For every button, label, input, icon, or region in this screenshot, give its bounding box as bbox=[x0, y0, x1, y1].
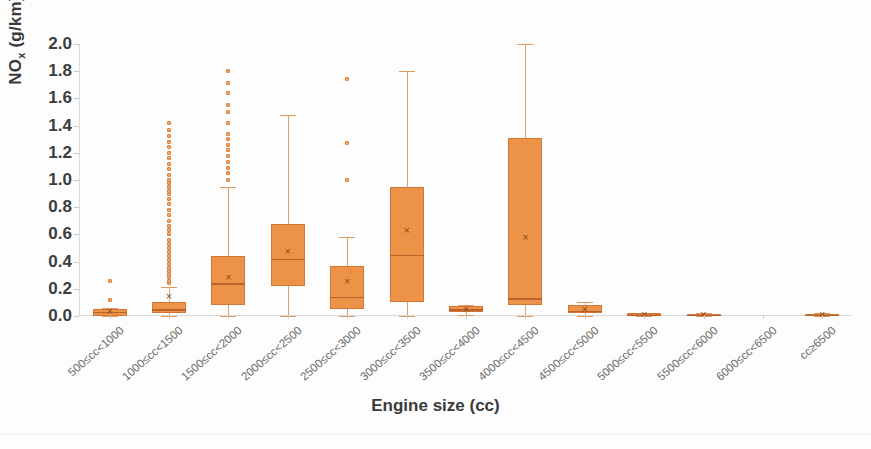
box-plot-group[interactable]: × bbox=[614, 44, 673, 316]
bottom-divider bbox=[0, 434, 871, 435]
outlier-point bbox=[345, 178, 349, 182]
y-axis-title-units: (g/km) bbox=[6, 0, 25, 52]
y-axis-title-main: NO bbox=[6, 59, 25, 85]
whisker-upper bbox=[288, 115, 289, 224]
mean-marker: × bbox=[582, 303, 588, 314]
outlier-point bbox=[167, 208, 171, 212]
box-plot-group[interactable]: × bbox=[793, 44, 852, 316]
outlier-point bbox=[226, 143, 230, 147]
outlier-point bbox=[167, 219, 171, 223]
whisker-upper bbox=[228, 187, 229, 256]
box-plot-group[interactable]: × bbox=[258, 44, 317, 316]
box-plot-group[interactable]: × bbox=[199, 44, 258, 316]
y-tick-label: 0.0 bbox=[26, 306, 72, 326]
y-tick-mark bbox=[74, 44, 79, 45]
outlier-point bbox=[226, 69, 230, 73]
mean-marker: × bbox=[344, 275, 350, 286]
y-tick-label: 0.8 bbox=[26, 197, 72, 217]
outlier-point bbox=[226, 148, 230, 152]
outlier-point bbox=[226, 91, 230, 95]
whisker-cap-upper bbox=[280, 115, 296, 116]
y-tick-mark bbox=[74, 71, 79, 72]
y-tick-mark bbox=[74, 289, 79, 290]
box-plot-group[interactable] bbox=[733, 44, 792, 316]
outlier-point bbox=[345, 77, 349, 81]
x-tick-mark bbox=[525, 315, 526, 319]
outlier-point bbox=[167, 258, 171, 262]
box-plot-group[interactable]: × bbox=[139, 44, 198, 316]
outlier-point bbox=[167, 178, 171, 182]
y-tick-mark bbox=[74, 316, 79, 317]
x-tick-mark bbox=[644, 315, 645, 319]
outlier-point bbox=[167, 224, 171, 228]
outlier-point bbox=[167, 145, 171, 149]
outlier-point bbox=[167, 202, 171, 206]
outlier-point bbox=[167, 213, 171, 217]
median-line bbox=[271, 259, 305, 261]
outlier-point bbox=[226, 137, 230, 141]
outlier-point bbox=[167, 140, 171, 144]
outlier-point bbox=[167, 228, 171, 232]
box-iqr[interactable] bbox=[390, 187, 424, 303]
outlier-point bbox=[167, 266, 171, 270]
boxplot-figure: NOx (g/km) 0.00.20.40.60.81.01.21.41.61.… bbox=[0, 0, 871, 449]
box-plot-group[interactable]: × bbox=[555, 44, 614, 316]
box-iqr[interactable] bbox=[508, 138, 542, 305]
x-tick-mark bbox=[347, 315, 348, 319]
y-tick-mark bbox=[74, 98, 79, 99]
outlier-point bbox=[167, 151, 171, 155]
box-plot-group[interactable]: × bbox=[436, 44, 495, 316]
outlier-point bbox=[108, 279, 112, 283]
box-plot-group[interactable]: × bbox=[674, 44, 733, 316]
box-plot-group[interactable]: × bbox=[377, 44, 436, 316]
y-tick-mark bbox=[74, 180, 79, 181]
x-tick-mark bbox=[763, 315, 764, 319]
x-tick-mark bbox=[288, 315, 289, 319]
outlier-point bbox=[167, 279, 171, 283]
outlier-point bbox=[226, 178, 230, 182]
y-tick-label: 2.0 bbox=[26, 34, 72, 54]
outlier-point bbox=[226, 154, 230, 158]
x-tick-mark bbox=[228, 315, 229, 319]
mean-marker: × bbox=[403, 225, 409, 236]
y-tick-mark bbox=[74, 126, 79, 127]
mean-marker: × bbox=[285, 245, 291, 256]
whisker-upper bbox=[347, 237, 348, 266]
box-plot-group[interactable]: × bbox=[80, 44, 139, 316]
outlier-point bbox=[167, 232, 171, 236]
outlier-point bbox=[167, 250, 171, 254]
mean-marker: × bbox=[463, 304, 469, 315]
whisker-lower bbox=[288, 286, 289, 316]
whisker-cap-upper bbox=[339, 237, 355, 238]
outlier-point bbox=[167, 262, 171, 266]
outlier-point bbox=[167, 162, 171, 166]
median-line bbox=[330, 297, 364, 299]
outlier-point bbox=[167, 167, 171, 171]
whisker-cap-upper bbox=[220, 187, 236, 188]
outlier-point bbox=[226, 160, 230, 164]
y-tick-mark bbox=[74, 207, 79, 208]
x-axis-title: Engine size (cc) bbox=[0, 396, 871, 416]
median-line bbox=[152, 309, 186, 311]
whisker-upper bbox=[407, 71, 408, 187]
outlier-point bbox=[167, 156, 171, 160]
plot-area: 0.00.20.40.60.81.01.21.41.61.82.0 ××××××… bbox=[80, 44, 852, 316]
y-tick-label: 1.0 bbox=[26, 170, 72, 190]
box-iqr[interactable] bbox=[152, 302, 186, 313]
whisker-cap-upper bbox=[399, 71, 415, 72]
whisker-lower bbox=[407, 302, 408, 316]
x-tick-mark bbox=[585, 315, 586, 319]
outlier-point bbox=[108, 298, 112, 302]
outlier-point bbox=[226, 81, 230, 85]
box-plot-group[interactable]: × bbox=[318, 44, 377, 316]
outlier-point bbox=[226, 110, 230, 114]
outlier-point bbox=[167, 128, 171, 132]
y-tick-label: 1.6 bbox=[26, 88, 72, 108]
x-tick-mark bbox=[466, 315, 467, 319]
outlier-point bbox=[167, 185, 171, 189]
box-iqr[interactable] bbox=[330, 266, 364, 310]
mean-marker: × bbox=[225, 271, 231, 282]
outlier-point bbox=[167, 189, 171, 193]
box-plot-group[interactable]: × bbox=[496, 44, 555, 316]
outlier-point bbox=[167, 246, 171, 250]
